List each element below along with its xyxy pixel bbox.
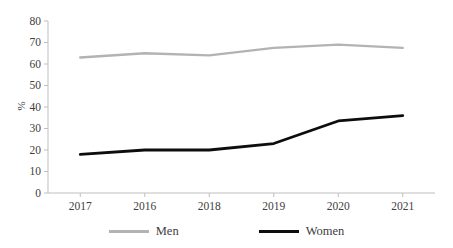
y-tick-label: 0	[35, 187, 41, 199]
y-tick-label: 50	[30, 79, 42, 91]
legend-label-women: Women	[306, 224, 345, 239]
x-tick-label: 2020	[327, 200, 350, 212]
y-axis-title: %	[14, 93, 28, 119]
legend-item-men: Men	[109, 224, 179, 239]
x-tick-label: 2017	[69, 200, 92, 212]
y-tick-label: 40	[30, 101, 42, 113]
y-tick-label: 60	[30, 58, 42, 70]
y-tick-label: 80	[30, 15, 42, 27]
x-tick-label: 2018	[198, 200, 221, 212]
legend-item-women: Women	[259, 224, 345, 239]
x-tick-label: 2019	[262, 200, 285, 212]
x-tick-label: 2016	[133, 200, 156, 212]
chart-plot-area: 0102030405060708020172016201820192020202…	[0, 0, 453, 248]
line-chart-figure: 0102030405060708020172016201820192020202…	[0, 0, 453, 248]
x-tick-label: 2021	[391, 200, 414, 212]
y-tick-label: 30	[30, 122, 42, 134]
men-line-swatch	[109, 230, 149, 232]
series-line-women	[80, 116, 403, 155]
y-tick-label: 70	[30, 36, 42, 48]
y-tick-label: 20	[30, 144, 42, 156]
y-tick-label: 10	[30, 165, 42, 177]
chart-legend: Men Women	[0, 224, 453, 239]
women-line-swatch	[259, 230, 299, 233]
series-line-men	[80, 45, 403, 58]
legend-label-men: Men	[156, 224, 179, 239]
